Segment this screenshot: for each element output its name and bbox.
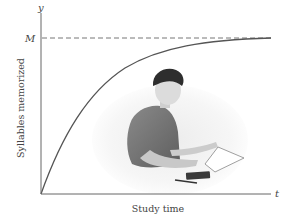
x-axis-label: Study time [132,203,185,214]
y-axis-symbol: y [37,2,44,13]
learning-curve-figure: y t M Syllables memorized Study time [0,0,297,221]
student-illustration [92,69,248,195]
y-axis-label: Syllables memorized [15,58,26,158]
t-axis-symbol: t [275,188,280,199]
asymptote-label: M [24,33,36,44]
